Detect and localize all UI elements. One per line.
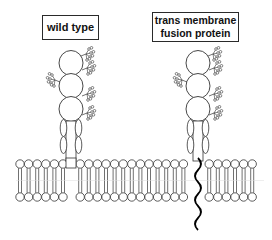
lipid-head-inner [16, 193, 24, 201]
transmembrane-helix [195, 158, 201, 230]
lipid-head-outer [128, 160, 136, 168]
stalk-barrel [60, 120, 82, 162]
sugar-residue [92, 95, 95, 98]
lipid-head-outer [205, 160, 213, 168]
lipid-head-inner [222, 193, 230, 201]
lipid-head-outer [24, 160, 32, 168]
lipid-head-outer [222, 160, 230, 168]
glycan-icon [82, 87, 96, 102]
stalk-segment [187, 120, 194, 137]
stalk-core [193, 121, 203, 161]
sugar-residue [46, 77, 49, 80]
sugar-residue [220, 110, 223, 113]
lipid-head-outer [136, 160, 144, 168]
sugar-residue [90, 47, 93, 50]
lipid-head-inner [76, 193, 84, 201]
glycan-icon [82, 61, 96, 76]
sugar-residue [50, 84, 53, 87]
sugar-residue [219, 69, 222, 72]
sugar-residue [216, 98, 219, 101]
sugar-residue [89, 88, 92, 91]
lipid-head-inner [171, 193, 179, 201]
sugar-residue [91, 111, 94, 114]
glycan-icon [82, 106, 96, 121]
lipid-head-inner [50, 193, 58, 201]
tm-fusion-label-line2: fusion protein [153, 27, 238, 40]
glycan-icon [209, 61, 223, 76]
sugar-residue [178, 74, 181, 77]
sugar-residue [217, 47, 220, 50]
sugar-residue [92, 51, 95, 54]
sugar-residue [177, 84, 180, 87]
sugar-residue [91, 61, 94, 64]
lipid-head-outer [145, 160, 153, 168]
sugar-residue [218, 66, 221, 69]
lipid-head-outer [102, 160, 110, 168]
sugar-residue [215, 58, 218, 61]
sugar-residue [91, 55, 94, 58]
lipid-head-inner [85, 193, 93, 201]
glycan-icon [208, 47, 222, 62]
sugar-residue [89, 62, 92, 65]
lipid-head-outer [171, 160, 179, 168]
protein-domain [59, 97, 83, 122]
sugar-residue [219, 114, 222, 117]
protein-domain [186, 74, 210, 99]
protein-domain [59, 74, 83, 99]
sugar-residue [90, 52, 93, 55]
sugar-residue [93, 65, 96, 68]
glycan-icon [81, 47, 95, 62]
lipid-head-outer [248, 160, 256, 168]
lipid-head-outer [162, 160, 170, 168]
sugar-residue [88, 58, 91, 61]
lipid-head-inner [110, 193, 118, 201]
gpi-anchor [66, 158, 76, 168]
stalk-segment [60, 120, 67, 137]
sugar-residue [91, 87, 94, 90]
lipid-head-outer [179, 160, 187, 168]
sugar-residue [87, 73, 90, 76]
lipid-head-inner [162, 193, 170, 201]
tm-fusion-protein [173, 47, 223, 231]
sugar-residue [220, 91, 223, 94]
sugar-residue [218, 61, 221, 64]
sugar-residue [91, 92, 94, 95]
lipid-head-outer [119, 160, 127, 168]
lipid-head-outer [231, 160, 239, 168]
sugar-residue [214, 73, 217, 76]
sugar-residue [89, 117, 92, 120]
lipid-head-inner [214, 193, 222, 201]
wild-type-label: wild type [42, 15, 99, 40]
stalk-barrel [187, 120, 209, 162]
lipid-bilayer [16, 160, 264, 201]
lipid-head-inner [128, 193, 136, 201]
lipid-head-outer [214, 160, 222, 168]
protein-domain [186, 97, 210, 122]
stalk-segment [75, 120, 82, 137]
lipid-head-inner [93, 193, 101, 201]
lipid-head-outer [76, 160, 84, 168]
sugar-residue [216, 88, 219, 91]
sugar-residue [174, 81, 177, 84]
sugar-residue [89, 72, 92, 75]
sugar-residue [215, 48, 218, 51]
glycan-icon [173, 73, 187, 88]
lipid-head-inner [231, 193, 239, 201]
lipid-head-outer [239, 160, 247, 168]
sugar-residue [92, 69, 95, 72]
sugar-residue [89, 98, 92, 101]
sugar-residue [175, 73, 178, 76]
sugar-residue [218, 87, 221, 90]
sugar-residue [176, 78, 179, 81]
lipid-head-outer [42, 160, 50, 168]
sugar-residue [218, 92, 221, 95]
sugar-residue [91, 66, 94, 69]
glycan-icon [46, 73, 60, 88]
wild-type-label-text: wild type [47, 21, 94, 33]
sugar-residue [218, 111, 221, 114]
lipid-head-inner [102, 193, 110, 201]
lipid-head-inner [136, 193, 144, 201]
sugar-residue [87, 118, 90, 121]
sugar-residue [93, 110, 96, 113]
sugar-residue [216, 72, 219, 75]
